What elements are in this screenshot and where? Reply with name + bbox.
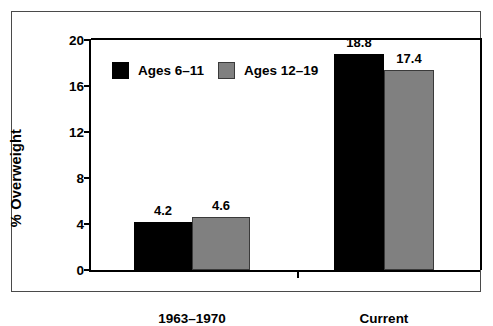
- y-tick-label-4: 4: [76, 217, 84, 232]
- y-tick-label-0: 0: [76, 263, 84, 278]
- x-category-label-1963-1970: 1963–1970: [158, 311, 226, 326]
- legend-entry-ages-6-11[interactable]: Ages 6–11: [112, 62, 204, 79]
- y-tick-label-16: 16: [69, 79, 84, 94]
- y-tick-mark-8: [84, 177, 91, 179]
- bar-value-current-ages-12-19: 17.4: [396, 51, 421, 66]
- bar-value-1963-1970-ages-12-19: 4.6: [212, 198, 230, 213]
- bar-current-ages-6-11[interactable]: [334, 54, 384, 270]
- y-tick-mark-4: [84, 223, 91, 225]
- y-tick-label-8: 8: [76, 171, 84, 186]
- bar-1963-1970-ages-12-19[interactable]: [192, 217, 250, 270]
- legend-label-ages-12-19: Ages 12–19: [244, 63, 318, 78]
- y-tick-label-20: 20: [69, 33, 84, 48]
- legend-entry-ages-12-19[interactable]: Ages 12–19: [218, 62, 318, 79]
- legend-swatch-icon-ages-6-11: [112, 62, 129, 79]
- y-tick-mark-12: [84, 131, 91, 133]
- legend-swatch-icon-ages-12-19: [218, 62, 235, 79]
- bar-value-1963-1970-ages-6-11: 4.2: [154, 203, 172, 218]
- bar-1963-1970-ages-6-11[interactable]: [134, 222, 192, 270]
- y-tick-mark-16: [84, 85, 91, 87]
- figure-frame: % Overweight 20 16 12 8 4 0 4.2 4.6 18.8…: [11, 11, 481, 292]
- bar-value-current-ages-6-11: 18.8: [346, 35, 371, 50]
- y-tick-mark-0: [84, 269, 91, 271]
- y-tick-mark-20: [84, 39, 91, 41]
- y-axis-title: % Overweight: [8, 108, 24, 248]
- x-tick-mark-group-separator: [297, 270, 299, 278]
- legend-label-ages-6-11: Ages 6–11: [138, 63, 204, 78]
- chart-legend: Ages 6–11 Ages 12–19: [112, 62, 318, 79]
- bar-current-ages-12-19[interactable]: [384, 70, 434, 270]
- y-tick-label-12: 12: [69, 125, 84, 140]
- x-category-label-current: Current: [360, 311, 409, 326]
